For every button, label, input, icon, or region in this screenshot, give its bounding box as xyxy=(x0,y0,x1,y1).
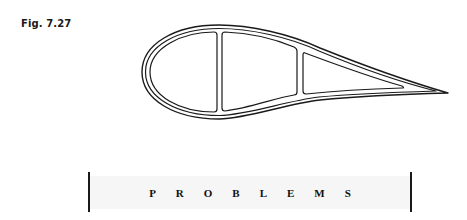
section-heading-text: PROBLEMS xyxy=(149,187,371,199)
airfoil-outer-skin xyxy=(142,25,448,119)
airfoil-figure xyxy=(0,0,467,160)
section-heading: PROBLEMS xyxy=(89,176,411,209)
cell-1 xyxy=(150,32,217,112)
cell-2 xyxy=(222,32,297,111)
